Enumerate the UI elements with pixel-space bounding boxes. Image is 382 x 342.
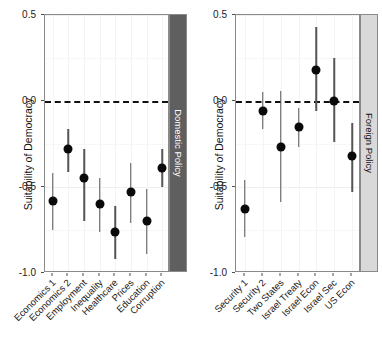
gridline-minor-domestic-1 <box>45 144 168 145</box>
y-tick-label-foreign-2: -0.5 <box>193 181 227 192</box>
gridline-h-domestic-0 <box>45 15 168 16</box>
gridline-minor-domestic-2 <box>45 230 168 231</box>
data-point-foreign-3 <box>294 122 303 131</box>
data-point-foreign-0 <box>240 205 249 214</box>
y-tick-label-domestic-1: 0.0 <box>2 95 36 106</box>
x-tick-mark-domestic-5 <box>129 273 130 276</box>
panel-domestic-policy: Suitability of Democracy 0.50.0-0.5-1.0 … <box>0 0 191 342</box>
x-tick-mark-domestic-3 <box>98 273 99 276</box>
gridline-v-foreign-1 <box>263 15 264 271</box>
y-tick-mark-foreign-3 <box>232 272 235 273</box>
gridline-minor-foreign-0 <box>236 58 359 59</box>
facet-strip-label-domestic: Domestic Policy <box>173 109 184 177</box>
data-point-foreign-1 <box>258 107 267 116</box>
x-tick-mark-foreign-0 <box>243 273 244 276</box>
gridline-v-foreign-5 <box>334 15 335 271</box>
y-tick-label-domestic-2: -0.5 <box>2 181 36 192</box>
gridline-v-domestic-0 <box>53 15 54 271</box>
data-point-foreign-4 <box>312 66 321 75</box>
x-tick-mark-foreign-2 <box>279 273 280 276</box>
x-tick-mark-foreign-6 <box>351 273 352 276</box>
y-tick-label-foreign-0: 0.5 <box>193 9 227 20</box>
x-tick-mark-foreign-3 <box>297 273 298 276</box>
y-tick-mark-domestic-3 <box>41 272 44 273</box>
data-point-domestic-5 <box>126 188 135 197</box>
plot-area-domestic <box>44 14 169 272</box>
y-tick-label-domestic-0: 0.5 <box>2 9 36 20</box>
x-tick-mark-domestic-1 <box>67 273 68 276</box>
data-point-domestic-4 <box>111 227 120 236</box>
data-point-foreign-6 <box>348 152 357 161</box>
gridline-h-foreign-2 <box>236 187 359 188</box>
y-tick-label-domestic-3: -1.0 <box>2 267 36 278</box>
x-tick-mark-foreign-5 <box>333 273 334 276</box>
gridline-h-foreign-0 <box>236 15 359 16</box>
data-point-foreign-5 <box>330 97 339 106</box>
gridline-v-domestic-3 <box>100 15 101 271</box>
y-tick-label-foreign-3: -1.0 <box>193 267 227 278</box>
zero-reference-line-foreign <box>236 101 359 103</box>
data-point-foreign-2 <box>276 143 285 152</box>
panel-foreign-policy: Suitability of Democracy 0.50.0-0.5-1.0 … <box>191 0 382 342</box>
x-tick-mark-foreign-4 <box>315 273 316 276</box>
data-point-domestic-7 <box>158 164 167 173</box>
gridline-minor-foreign-2 <box>236 230 359 231</box>
x-tick-mark-foreign-1 <box>261 273 262 276</box>
zero-reference-line-domestic <box>45 101 168 103</box>
x-tick-mark-domestic-4 <box>114 273 115 276</box>
gridline-v-domestic-7 <box>162 15 163 271</box>
data-point-domestic-2 <box>80 174 89 183</box>
x-tick-mark-domestic-0 <box>51 273 52 276</box>
x-tick-mark-domestic-6 <box>145 273 146 276</box>
data-point-domestic-1 <box>64 145 73 154</box>
error-bar-domestic-2 <box>83 149 85 221</box>
gridline-v-domestic-2 <box>84 15 85 271</box>
plot-area-foreign <box>235 14 360 272</box>
figure-container: Suitability of Democracy 0.50.0-0.5-1.0 … <box>0 0 382 342</box>
x-tick-mark-domestic-7 <box>161 273 162 276</box>
gridline-minor-domestic-0 <box>45 58 168 59</box>
data-point-domestic-3 <box>95 200 104 209</box>
data-point-domestic-0 <box>48 196 57 205</box>
x-tick-mark-domestic-2 <box>83 273 84 276</box>
y-tick-label-foreign-1: 0.0 <box>193 95 227 106</box>
gridline-v-domestic-5 <box>131 15 132 271</box>
facet-strip-label-foreign: Foreign Policy <box>364 113 375 173</box>
data-point-domestic-6 <box>142 217 151 226</box>
facet-strip-domestic: Domestic Policy <box>169 14 187 272</box>
facet-strip-foreign: Foreign Policy <box>360 14 378 272</box>
gridline-h-domestic-2 <box>45 187 168 188</box>
